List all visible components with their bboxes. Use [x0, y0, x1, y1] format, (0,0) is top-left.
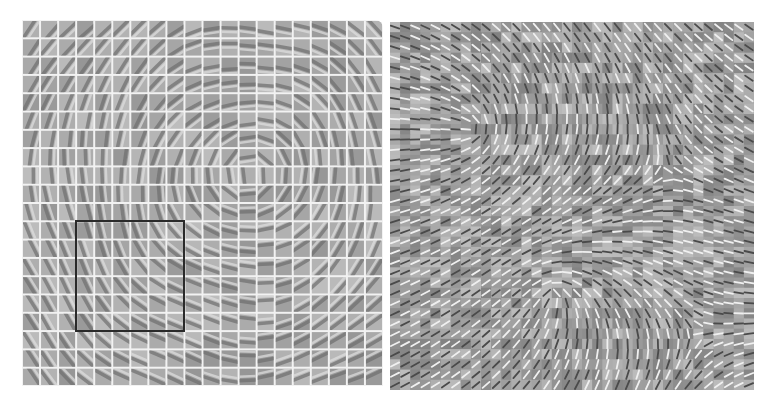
- left-filter-grid-panel: [22, 20, 383, 386]
- left-filter-grid: [22, 20, 383, 386]
- right-orientation-map: [390, 22, 754, 390]
- right-orientation-map-panel: [390, 22, 754, 390]
